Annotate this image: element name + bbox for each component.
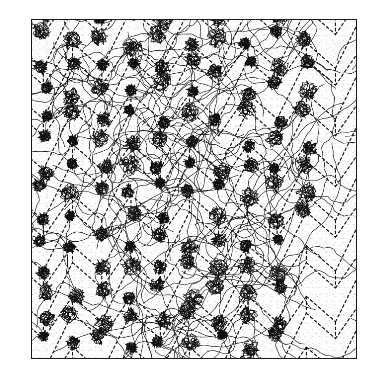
simulation-snapshot-canvas bbox=[32, 20, 356, 358]
simulation-box-frame bbox=[31, 19, 357, 359]
figure-root bbox=[0, 0, 385, 389]
